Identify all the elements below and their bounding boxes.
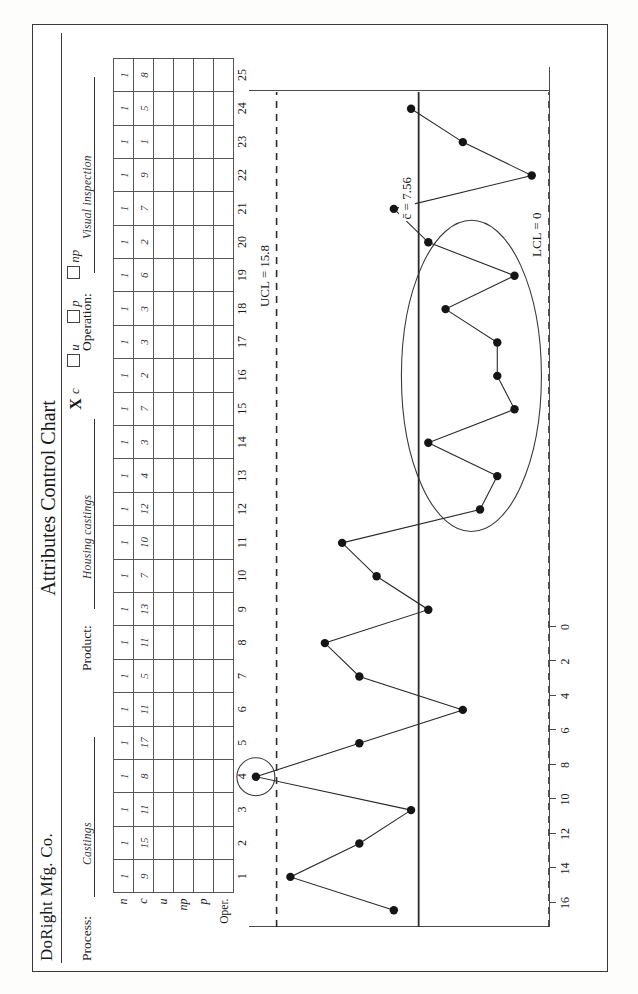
table-cell[interactable]: 11 bbox=[134, 693, 154, 726]
table-cell[interactable] bbox=[174, 693, 194, 726]
table-cell[interactable] bbox=[174, 793, 194, 826]
table-cell[interactable] bbox=[174, 559, 194, 592]
table-cell[interactable] bbox=[194, 860, 214, 893]
table-cell[interactable] bbox=[174, 292, 194, 325]
table-cell[interactable]: 1 bbox=[114, 459, 134, 492]
table-cell[interactable] bbox=[154, 826, 174, 859]
table-cell[interactable] bbox=[214, 359, 234, 392]
table-cell[interactable] bbox=[214, 759, 234, 792]
table-cell[interactable] bbox=[154, 325, 174, 358]
data-point[interactable] bbox=[321, 639, 329, 647]
table-cell[interactable] bbox=[194, 459, 214, 492]
table-cell[interactable] bbox=[154, 559, 174, 592]
table-cell[interactable] bbox=[154, 759, 174, 792]
table-cell[interactable]: 1 bbox=[114, 860, 134, 893]
table-cell[interactable]: 1 bbox=[114, 726, 134, 759]
data-point[interactable] bbox=[407, 806, 415, 814]
table-cell[interactable]: 9 bbox=[134, 158, 154, 191]
table-cell[interactable]: 17 bbox=[134, 726, 154, 759]
table-cell[interactable]: 1 bbox=[114, 359, 134, 392]
table-cell[interactable] bbox=[154, 860, 174, 893]
table-cell[interactable]: 7 bbox=[134, 192, 154, 225]
table-cell[interactable] bbox=[154, 125, 174, 158]
table-cell[interactable] bbox=[174, 726, 194, 759]
operation-field[interactable]: Operation: Visual inspection bbox=[69, 51, 103, 351]
data-point[interactable] bbox=[355, 839, 363, 847]
table-cell[interactable]: 8 bbox=[134, 759, 154, 792]
table-cell[interactable] bbox=[154, 659, 174, 692]
table-cell[interactable]: 10 bbox=[134, 526, 154, 559]
data-point[interactable] bbox=[286, 873, 294, 881]
table-cell[interactable] bbox=[194, 526, 214, 559]
table-cell[interactable] bbox=[214, 826, 234, 859]
table-cell[interactable]: 11 bbox=[134, 793, 154, 826]
table-cell[interactable] bbox=[154, 693, 174, 726]
data-point[interactable] bbox=[459, 706, 467, 714]
table-cell[interactable] bbox=[174, 359, 194, 392]
data-point[interactable] bbox=[424, 439, 432, 447]
data-point[interactable] bbox=[252, 773, 260, 781]
table-cell[interactable] bbox=[214, 92, 234, 125]
table-cell[interactable] bbox=[194, 225, 214, 258]
data-point[interactable] bbox=[459, 138, 467, 146]
table-cell[interactable] bbox=[174, 392, 194, 425]
table-cell[interactable] bbox=[154, 259, 174, 292]
table-cell[interactable] bbox=[154, 426, 174, 459]
table-cell[interactable] bbox=[174, 426, 194, 459]
table-cell[interactable]: 2 bbox=[134, 225, 154, 258]
table-cell[interactable]: 3 bbox=[134, 325, 154, 358]
table-cell[interactable] bbox=[174, 592, 194, 625]
table-cell[interactable] bbox=[214, 659, 234, 692]
table-cell[interactable] bbox=[174, 492, 194, 525]
data-point[interactable] bbox=[493, 338, 501, 346]
data-point[interactable] bbox=[424, 606, 432, 614]
data-point[interactable] bbox=[372, 572, 380, 580]
table-cell[interactable] bbox=[154, 359, 174, 392]
table-cell[interactable] bbox=[194, 158, 214, 191]
table-cell[interactable] bbox=[214, 693, 234, 726]
table-cell[interactable]: 7 bbox=[134, 559, 154, 592]
table-cell[interactable] bbox=[174, 158, 194, 191]
table-cell[interactable] bbox=[174, 92, 194, 125]
data-point[interactable] bbox=[355, 739, 363, 747]
table-cell[interactable]: 1 bbox=[114, 592, 134, 625]
table-cell[interactable]: 1 bbox=[114, 58, 134, 91]
table-cell[interactable] bbox=[214, 58, 234, 91]
table-cell[interactable] bbox=[154, 292, 174, 325]
table-cell[interactable] bbox=[194, 292, 214, 325]
table-cell[interactable] bbox=[194, 592, 214, 625]
table-cell[interactable] bbox=[174, 58, 194, 91]
data-point[interactable] bbox=[510, 405, 518, 413]
table-cell[interactable]: 1 bbox=[114, 392, 134, 425]
table-cell[interactable]: 1 bbox=[114, 92, 134, 125]
table-cell[interactable] bbox=[154, 592, 174, 625]
table-cell[interactable]: 15 bbox=[134, 826, 154, 859]
table-cell[interactable] bbox=[154, 459, 174, 492]
process-field[interactable]: Process: Castings bbox=[69, 711, 103, 961]
table-cell[interactable] bbox=[214, 726, 234, 759]
table-cell[interactable] bbox=[174, 626, 194, 659]
table-cell[interactable]: 1 bbox=[114, 659, 134, 692]
product-field[interactable]: Product: Housing castings bbox=[69, 401, 103, 671]
table-cell[interactable] bbox=[194, 426, 214, 459]
table-cell[interactable] bbox=[214, 559, 234, 592]
table-cell[interactable] bbox=[214, 125, 234, 158]
table-cell[interactable]: 6 bbox=[134, 259, 154, 292]
table-cell[interactable] bbox=[214, 459, 234, 492]
table-cell[interactable] bbox=[194, 826, 214, 859]
data-point[interactable] bbox=[476, 505, 484, 513]
table-cell[interactable]: 5 bbox=[134, 659, 154, 692]
table-cell[interactable]: 9 bbox=[134, 860, 154, 893]
table-cell[interactable] bbox=[154, 92, 174, 125]
data-point[interactable] bbox=[338, 539, 346, 547]
table-cell[interactable] bbox=[194, 92, 214, 125]
table-cell[interactable] bbox=[214, 325, 234, 358]
table-cell[interactable] bbox=[194, 559, 214, 592]
table-cell[interactable]: 3 bbox=[134, 292, 154, 325]
table-cell[interactable] bbox=[174, 125, 194, 158]
table-cell[interactable]: 4 bbox=[134, 459, 154, 492]
table-cell[interactable] bbox=[194, 693, 214, 726]
table-cell[interactable] bbox=[194, 58, 214, 91]
table-cell[interactable]: 5 bbox=[134, 92, 154, 125]
table-cell[interactable] bbox=[174, 325, 194, 358]
